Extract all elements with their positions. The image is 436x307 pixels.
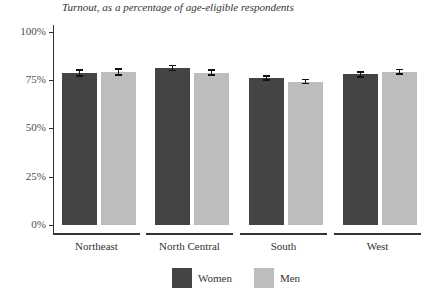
y-tick-label: 25% — [0, 170, 46, 182]
y-tick — [49, 225, 53, 226]
bar-women — [62, 73, 97, 225]
y-tick — [49, 177, 53, 178]
x-category-label: South — [240, 240, 327, 252]
y-tick — [49, 32, 53, 33]
y-tick-label: 75% — [0, 73, 46, 85]
chart-subtitle: Turnout, as a percentage of age-eligible… — [62, 1, 294, 13]
legend-label-men: Men — [280, 272, 300, 284]
y-tick — [49, 128, 53, 129]
error-bar — [208, 69, 215, 76]
error-bar — [76, 69, 83, 76]
x-category-label: West — [334, 240, 421, 252]
y-axis-line — [53, 25, 54, 234]
y-tick-label: 50% — [0, 121, 46, 133]
error-bar — [115, 68, 122, 75]
error-bar — [263, 75, 270, 80]
legend-item-women: Women — [172, 268, 232, 288]
bar-men — [288, 82, 323, 225]
legend: Women Men — [172, 268, 322, 288]
x-category-label: North Central — [146, 240, 233, 252]
bar-women — [155, 68, 190, 225]
legend-swatch-men — [254, 268, 274, 288]
legend-swatch-women — [172, 268, 192, 288]
y-tick-label: 0% — [0, 218, 46, 230]
x-axis-segment — [146, 233, 233, 235]
x-axis-segment — [240, 233, 327, 235]
error-bar — [169, 65, 176, 72]
x-axis-segment — [53, 233, 140, 235]
y-tick-label: 100% — [0, 25, 46, 37]
bar-women — [249, 78, 284, 225]
y-tick — [49, 80, 53, 81]
error-bar — [357, 71, 364, 77]
legend-label-women: Women — [198, 272, 232, 284]
bar-men — [101, 72, 136, 225]
x-axis-segment — [334, 233, 421, 235]
error-bar — [302, 79, 309, 84]
bar-women — [343, 74, 378, 225]
x-category-label: Northeast — [53, 240, 140, 252]
error-bar — [396, 69, 403, 75]
bar-men — [194, 73, 229, 225]
legend-item-men: Men — [254, 268, 300, 288]
bar-men — [382, 72, 417, 225]
